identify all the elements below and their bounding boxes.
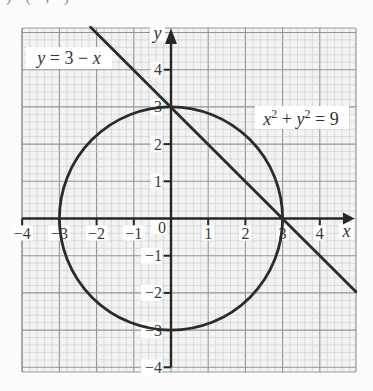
x-tick-label: 4 (316, 225, 324, 242)
y-tick-label: 2 (154, 136, 162, 153)
graph-canvas: y = 3 − x x2 + y2 = 9 y x 0 −4−3−2−11234… (0, 0, 373, 391)
y-axis-letter: y (152, 23, 162, 43)
y-tick-label: −4 (145, 359, 162, 376)
y-tick-label: 1 (154, 173, 162, 190)
y-tick-label: −2 (145, 284, 162, 301)
graph-paper (22, 28, 356, 372)
x-tick-label: −1 (125, 225, 142, 242)
y-tick-label: −1 (145, 247, 162, 264)
x-axis-letter: x (342, 221, 351, 241)
y-tick-label: 4 (154, 61, 162, 78)
x-tick-label: 1 (204, 225, 212, 242)
x-tick-label: −2 (88, 225, 105, 242)
origin-label: 0 (158, 219, 166, 236)
x-tick-label: −4 (14, 225, 31, 242)
figure-page: ) ( , ) y = 3 − x x2 + y2 = 9 y x 0 −4−3… (0, 0, 373, 391)
line-equation-label: y = 3 − x (35, 48, 100, 68)
x-tick-label: 2 (241, 225, 249, 242)
